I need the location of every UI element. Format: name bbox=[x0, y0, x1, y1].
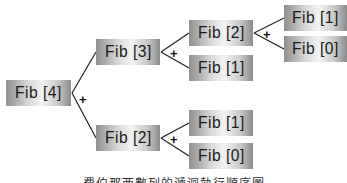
node-label: Fib [3] bbox=[105, 39, 152, 65]
diagram-caption: 費伯那西數列的遞迴執行順序圖 bbox=[0, 174, 347, 183]
node-label: Fib [2] bbox=[105, 125, 152, 151]
node-fib-4: Fib [4] bbox=[6, 80, 71, 106]
node-fib-1-bottom: Fib [1] bbox=[189, 110, 253, 136]
node-label: Fib [1] bbox=[292, 5, 339, 31]
plus-operator-fib4: + bbox=[79, 93, 87, 106]
node-label: Fib [1] bbox=[198, 55, 245, 81]
plus-operator-fib2-bottom: + bbox=[170, 133, 178, 146]
node-fib-0-top: Fib [0] bbox=[284, 36, 347, 62]
node-label: Fib [2] bbox=[198, 20, 245, 46]
node-label: Fib [0] bbox=[292, 36, 339, 62]
node-fib-1-top: Fib [1] bbox=[284, 5, 347, 31]
node-label: Fib [4] bbox=[15, 80, 62, 106]
plus-operator-fib3: + bbox=[170, 47, 178, 60]
node-fib-2-top: Fib [2] bbox=[189, 20, 253, 46]
fibonacci-recursion-diagram: Fib [4] Fib [3] Fib [2] Fib [1] Fib [0] … bbox=[0, 0, 347, 183]
node-fib-3: Fib [3] bbox=[96, 39, 160, 65]
node-fib-2-bottom: Fib [2] bbox=[96, 125, 160, 151]
node-label: Fib [0] bbox=[198, 143, 245, 169]
node-fib-1-mid: Fib [1] bbox=[189, 55, 253, 81]
node-label: Fib [1] bbox=[198, 110, 245, 136]
plus-operator-fib2-top: + bbox=[263, 28, 271, 41]
node-fib-0-bottom: Fib [0] bbox=[189, 143, 253, 169]
